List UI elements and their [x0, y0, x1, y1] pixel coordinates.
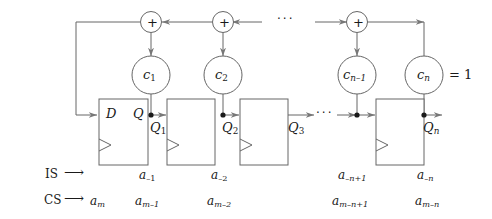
cn-label: cn [417, 68, 430, 83]
q2-output-label: Q2 [222, 121, 238, 136]
is-cell-n1-sub: –n+1 [345, 173, 366, 183]
cs-cell-0-sub: m [97, 199, 105, 209]
cn-1-label: cn–1 [343, 68, 366, 83]
cs-cell-n1-sub: m–n+1 [339, 199, 368, 209]
q2-sub: 2 [233, 126, 239, 136]
c2-label: c2 [215, 68, 228, 83]
is-cell-n1: a–n+1 [338, 169, 367, 182]
cn-sub: n [424, 73, 430, 83]
qn-output-label: Qn [423, 121, 439, 136]
qn-sub: n [434, 126, 440, 136]
ff-3-box [240, 99, 288, 165]
cs-row-label: CS [44, 194, 61, 206]
is-cell-2: a–2 [211, 169, 227, 182]
ff-2-box [167, 99, 215, 165]
diagram-canvas [0, 0, 492, 219]
cs-row-arrow-icon: ⟶ [64, 191, 84, 205]
shift-register-diagram: + + + c1 c2 cn–1 cn = 1 D Q Q1 Q2 Q3 Qn … [0, 0, 492, 219]
q1-base: Q [150, 120, 161, 135]
q2-junction-dot [220, 112, 225, 117]
qn1-junction-dot [354, 112, 359, 117]
is-cell-2-sub: –2 [218, 173, 227, 183]
ff-1-q-pin-label: Q [133, 107, 144, 120]
cs-cell-1: am–1 [135, 195, 159, 208]
q1-junction-dot [148, 112, 153, 117]
cn-1-sub: n–1 [350, 73, 366, 83]
q3-output-label: Q3 [288, 121, 304, 136]
q3-base: Q [288, 120, 299, 135]
cs-cell-n1: am–n+1 [332, 195, 368, 208]
q2-base: Q [222, 120, 233, 135]
qn-junction-dot [421, 112, 426, 117]
cs-cell-1-sub: m–1 [142, 199, 159, 209]
is-cell-n: a–n [417, 169, 434, 182]
cs-cell-n-sub: m–n [422, 199, 439, 209]
cs-cell-2-sub: m–2 [214, 199, 231, 209]
ff-1-d-pin-label: D [106, 107, 116, 120]
adder-1-plus: + [147, 16, 158, 29]
is-row-arrow-icon: ⟶ [64, 165, 84, 179]
q3-sub: 3 [299, 126, 305, 136]
c1-sub: 1 [150, 73, 156, 83]
qn-base: Q [423, 120, 434, 135]
c2-sub: 2 [222, 73, 228, 83]
is-cell-n-sub: –n [424, 173, 433, 183]
adder-n-1-plus: + [353, 16, 364, 29]
ff-n-box [376, 99, 424, 165]
is-row-label: IS [45, 168, 58, 180]
cs-cell-0: am [90, 195, 105, 208]
ellipsis-top-icon: ··· [277, 13, 294, 25]
cs-cell-n: am–n [415, 195, 439, 208]
q1-output-label: Q1 [150, 121, 166, 136]
is-cell-1-sub: –1 [146, 173, 155, 183]
ellipsis-mid-icon: ··· [316, 107, 333, 119]
c1-label: c1 [143, 68, 156, 83]
cs-cell-2: am–2 [207, 195, 231, 208]
is-cell-1: a–1 [139, 169, 155, 182]
q1-sub: 1 [161, 126, 167, 136]
cn-value-label: = 1 [449, 68, 472, 81]
adder-2-plus: + [219, 16, 230, 29]
